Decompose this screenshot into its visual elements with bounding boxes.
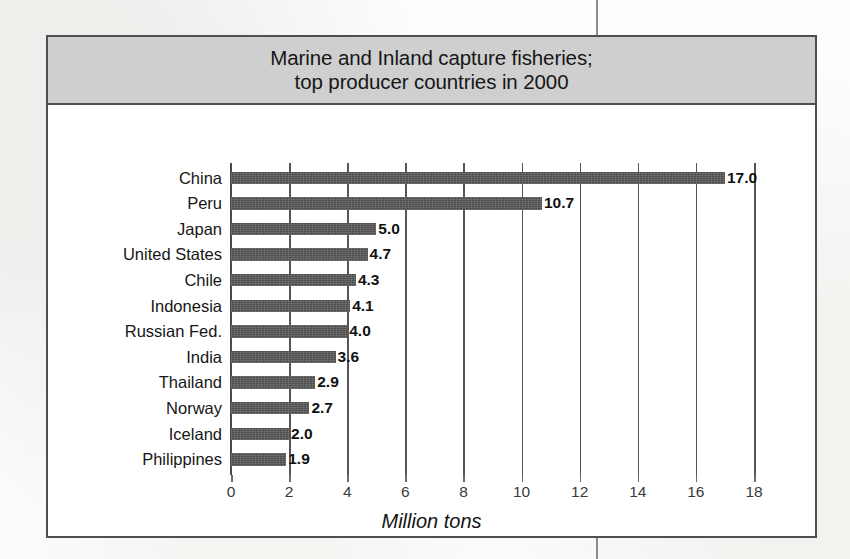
bar-row: Chile4.3 <box>231 267 754 293</box>
chart-title-band: Marine and Inland capture fisheries; top… <box>48 37 815 105</box>
x-axis-tick-label: 6 <box>401 483 410 501</box>
x-axis-tick-label: 10 <box>513 483 530 501</box>
bar <box>231 274 356 286</box>
bar-row: Indonesia4.1 <box>231 293 754 319</box>
bar-value-label: 4.1 <box>352 297 374 315</box>
bar <box>231 376 315 388</box>
plot-area: 024681012141618 China17.0Peru10.7Japan5.… <box>231 165 754 475</box>
category-label: Russian Fed. <box>125 321 222 341</box>
bar <box>231 248 368 260</box>
bar-row: Iceland2.0 <box>231 421 754 447</box>
bar-value-label: 10.7 <box>544 194 574 212</box>
bar-value-label: 4.7 <box>370 245 392 263</box>
x-axis-tick <box>347 475 349 482</box>
x-axis-tick <box>580 475 582 482</box>
x-axis-tick-label: 8 <box>459 483 468 501</box>
category-label: Iceland <box>169 424 222 444</box>
bar <box>231 172 725 184</box>
bar-row: Norway2.7 <box>231 395 754 421</box>
bar <box>231 197 542 209</box>
x-axis-tick-label: 2 <box>285 483 294 501</box>
bar-row: India3.6 <box>231 344 754 370</box>
chart-figure: Marine and Inland capture fisheries; top… <box>46 35 817 538</box>
x-axis-tick-label: 0 <box>227 483 236 501</box>
x-axis-tick <box>405 475 407 482</box>
category-label: China <box>179 168 222 188</box>
bar-row: China17.0 <box>231 165 754 191</box>
bar-row: Peru10.7 <box>231 191 754 217</box>
bar <box>231 300 350 312</box>
x-axis-tick <box>522 475 524 482</box>
x-axis-tick-label: 18 <box>745 483 762 501</box>
category-label: United States <box>123 244 222 264</box>
x-axis-tick <box>696 475 698 482</box>
bar <box>231 325 347 337</box>
bar-value-label: 4.0 <box>349 322 371 340</box>
category-label: Philippines <box>142 449 222 469</box>
bar-row: United States4.7 <box>231 242 754 268</box>
x-axis-tick <box>289 475 291 482</box>
bar <box>231 351 336 363</box>
category-label: Indonesia <box>150 296 222 316</box>
bar <box>231 428 289 440</box>
category-label: Chile <box>184 270 222 290</box>
category-label: Norway <box>166 398 222 418</box>
page-gutter-rule-bottom <box>596 538 598 559</box>
x-axis-tick <box>231 475 233 482</box>
plot-region: 024681012141618 China17.0Peru10.7Japan5.… <box>48 107 815 536</box>
bar <box>231 402 309 414</box>
gridline <box>754 163 756 475</box>
category-label: Japan <box>177 219 222 239</box>
chart-title: Marine and Inland capture fisheries; top… <box>270 46 592 94</box>
bar-value-label: 4.3 <box>358 271 380 289</box>
category-label: India <box>186 347 222 367</box>
bar-value-label: 5.0 <box>378 220 400 238</box>
x-axis-tick-label: 16 <box>687 483 704 501</box>
x-axis-tick <box>463 475 465 482</box>
x-axis-tick <box>638 475 640 482</box>
bar-value-label: 17.0 <box>727 169 757 187</box>
x-axis-tick-label: 14 <box>629 483 646 501</box>
bar-row: Russian Fed.4.0 <box>231 319 754 345</box>
bar-row: Philippines1.9 <box>231 447 754 473</box>
x-axis-title: Million tons <box>48 510 815 533</box>
bar-value-label: 2.7 <box>311 399 333 417</box>
x-axis-tick <box>754 475 756 482</box>
bar-value-label: 1.9 <box>288 450 310 468</box>
category-label: Peru <box>187 193 222 213</box>
category-label: Thailand <box>159 372 222 392</box>
bar-row: Thailand2.9 <box>231 370 754 396</box>
bar-value-label: 2.9 <box>317 373 339 391</box>
bar <box>231 223 376 235</box>
bar-row: Japan5.0 <box>231 216 754 242</box>
x-axis-tick-label: 4 <box>343 483 352 501</box>
x-axis-tick-label: 12 <box>571 483 588 501</box>
bar <box>231 453 286 465</box>
page-gutter-rule-top <box>596 0 598 36</box>
bar-value-label: 3.6 <box>338 348 360 366</box>
bar-value-label: 2.0 <box>291 425 313 443</box>
